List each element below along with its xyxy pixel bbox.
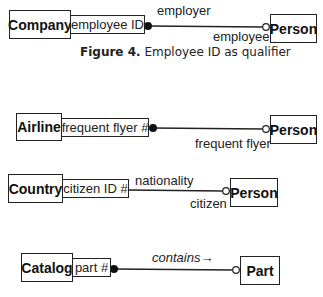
qualifier-part-number: part # <box>72 258 111 277</box>
open-circle-icon <box>263 126 270 133</box>
class-person: Person <box>230 178 278 207</box>
qualifier-citizen-id: citizen ID # <box>62 179 129 198</box>
open-circle-icon <box>223 188 230 195</box>
role-employee: employee <box>213 29 269 44</box>
class-company: Company <box>9 10 71 39</box>
open-circle-icon <box>233 267 240 274</box>
filled-dot-icon <box>144 22 152 30</box>
figure-text: Employee ID as qualifier <box>144 45 290 59</box>
class-part: Part <box>240 256 280 285</box>
qualifier-frequent-flyer: frequent flyer # <box>61 118 149 137</box>
class-person: Person <box>270 115 317 144</box>
role-frequent-flyer: frequent flyer <box>195 136 271 151</box>
association-contains: contains→ <box>152 250 213 265</box>
role-employer: employer <box>157 3 210 18</box>
class-catalog: Catalog <box>21 253 73 282</box>
role-nationality: nationality <box>135 173 194 188</box>
filled-dot-icon <box>149 124 157 132</box>
figure-label: Figure 4. <box>80 45 141 59</box>
class-country: Country <box>8 174 63 203</box>
filled-dot-icon <box>110 265 118 273</box>
role-citizen: citizen <box>190 196 227 211</box>
class-person: Person <box>270 14 317 43</box>
qualifier-employee-id: employee ID <box>70 15 145 34</box>
figure-caption: Figure 4. Employee ID as qualifier <box>80 45 291 59</box>
class-airline: Airline <box>16 113 62 141</box>
